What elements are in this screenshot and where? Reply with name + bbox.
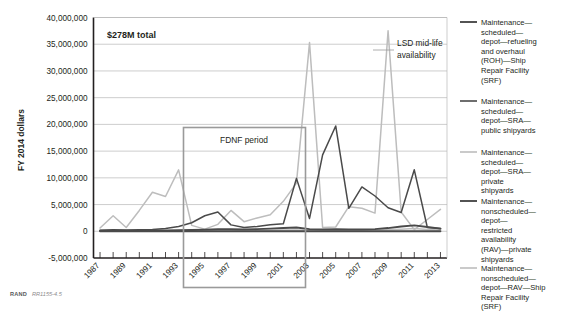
- x-axis-tick-marks: [100, 252, 440, 258]
- x-tick-label: 1989: [108, 261, 128, 281]
- legend-label: Maintenance—scheduled—depot—SRA—privates…: [481, 148, 532, 195]
- rand-credit-org: RAND: [10, 291, 27, 297]
- y-tick-label: 15,000,000: [47, 147, 88, 156]
- x-tick-label: 1993: [161, 261, 181, 281]
- total-annotation: $278M total: [107, 30, 156, 40]
- series-lines: [100, 31, 440, 231]
- y-tick-label: 35,000,000: [47, 40, 88, 49]
- x-tick-label: 2001: [266, 261, 286, 281]
- fdnf-period-label: FDNF period: [220, 135, 268, 145]
- y-tick-label: 30,000,000: [47, 67, 88, 76]
- y-tick-label: 25,000,000: [47, 94, 88, 103]
- lsd-annotation-line1: LSD mid-life: [397, 38, 443, 48]
- series-line: [100, 31, 440, 230]
- y-tick-label: -5,000,000: [48, 254, 88, 263]
- lsd-annotation-group: LSD mid-life availability: [373, 38, 443, 60]
- y-axis-tick-labels: 40,000,00035,000,00030,000,00025,000,000…: [47, 14, 88, 264]
- legend-label: Maintenance—nonscheduled—depot—restricte…: [481, 197, 536, 264]
- legend-label: Maintenance—nonscheduled—depot—RAV—ShipR…: [481, 264, 545, 311]
- x-tick-label: 1997: [213, 261, 233, 281]
- chart-legend: Maintenance—scheduled—depot—refuelingand…: [460, 18, 545, 311]
- y-tick-label: 40,000,000: [47, 14, 88, 23]
- x-tick-label: 2007: [344, 261, 364, 281]
- x-tick-label: 1999: [239, 261, 259, 281]
- x-tick-label: 1991: [135, 261, 155, 281]
- legend-label: Maintenance—scheduled—depot—refuelingand…: [481, 18, 537, 85]
- y-tick-label: 20,000,000: [47, 120, 88, 129]
- x-tick-label: 1987: [82, 261, 102, 281]
- x-tick-label: 2011: [397, 261, 416, 280]
- plot-border: [94, 18, 448, 259]
- x-tick-label: 2009: [370, 261, 390, 281]
- spending-line-chart: 40,000,00035,000,00030,000,00025,000,000…: [0, 0, 579, 331]
- chart-figure: 40,000,00035,000,00030,000,00025,000,000…: [0, 0, 579, 331]
- x-tick-label: 2013: [423, 261, 443, 281]
- rand-credit-id: RR1155-4.5: [32, 291, 63, 297]
- legend-label: Maintenance—scheduled—depot—SRA—public s…: [481, 97, 536, 135]
- x-tick-label: 1995: [187, 261, 207, 281]
- lsd-annotation-line2: availability: [397, 50, 436, 60]
- x-tick-label: 2005: [318, 261, 338, 281]
- y-tick-label: 0: [83, 227, 88, 236]
- x-axis-tick-labels: 1987198919911993199519971999200120032005…: [82, 261, 442, 281]
- x-tick-label: 2003: [292, 261, 312, 281]
- y-axis-title: FY 2014 dollars: [16, 109, 26, 171]
- y-tick-label: 10,000,000: [47, 174, 88, 183]
- y-tick-label: 5,000,000: [51, 201, 88, 210]
